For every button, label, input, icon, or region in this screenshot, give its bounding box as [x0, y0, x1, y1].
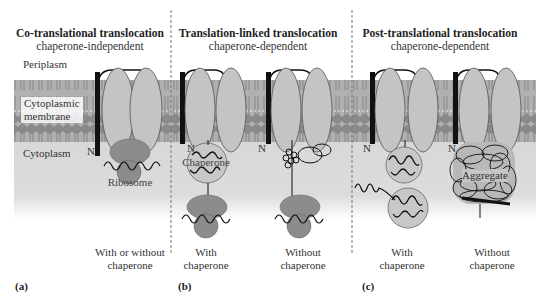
- membrane-label-line1: Cytoplasmic: [24, 97, 80, 109]
- caption-a-line1: With or without: [95, 246, 165, 259]
- aggregate-label: Aggregate: [462, 169, 508, 181]
- caption-b-with: With chaperone: [183, 246, 228, 272]
- caption-b-without-line2: chaperone: [280, 259, 325, 272]
- caption-b-without: Without chaperone: [280, 246, 325, 272]
- caption-a: With or without chaperone: [95, 246, 165, 272]
- caption-c-with-line1: With: [379, 246, 424, 259]
- caption-a-line2: chaperone: [95, 259, 165, 272]
- caption-b-with-line1: With: [183, 246, 228, 259]
- ribosome-label: Ribosome: [108, 176, 153, 188]
- panel-b-header: Translation-linked translocation chapero…: [179, 27, 338, 53]
- n-terminus-b2: N: [258, 142, 266, 154]
- panel-b-title: Translation-linked translocation: [179, 27, 338, 40]
- n-terminus-a: N: [87, 145, 95, 157]
- panel-b-subtitle: chaperone-dependent: [179, 40, 338, 53]
- n-terminus-c2: N: [448, 142, 456, 154]
- caption-c-without-line2: chaperone: [469, 259, 514, 272]
- periplasm-label: Periplasm: [23, 58, 67, 70]
- n-terminus-b1: N: [187, 142, 195, 154]
- n-terminus-c1: N: [363, 142, 371, 154]
- panel-b-label: (b): [178, 280, 191, 292]
- panel-a-subtitle: chaperone-independent: [16, 40, 164, 53]
- panel-a-header: Co-translational translocation chaperone…: [16, 27, 164, 53]
- caption-c-without: Without chaperone: [469, 246, 514, 272]
- caption-c-with-line2: chaperone: [379, 259, 424, 272]
- caption-c-with: With chaperone: [379, 246, 424, 272]
- panel-a-title: Co-translational translocation: [16, 27, 164, 40]
- caption-b-with-line2: chaperone: [183, 259, 228, 272]
- cytoplasm-label: Cytoplasm: [23, 147, 71, 159]
- panel-a-label: (a): [15, 280, 28, 292]
- membrane-label-line2: membrane: [24, 110, 70, 122]
- panel-c-title: Post-translational translocation: [363, 27, 518, 40]
- caption-c-without-line1: Without: [469, 246, 514, 259]
- panel-c-subtitle: chaperone-dependent: [363, 40, 518, 53]
- panel-c-label: (c): [362, 280, 374, 292]
- membrane-label: Cytoplasmic membrane: [21, 97, 83, 123]
- panel-c-header: Post-translational translocation chapero…: [363, 27, 518, 53]
- caption-b-without-line1: Without: [280, 246, 325, 259]
- chaperone-label: Chaperone: [182, 156, 230, 168]
